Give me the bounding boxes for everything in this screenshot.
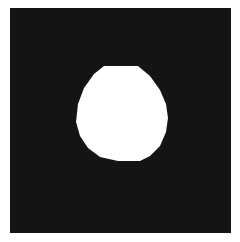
white-blob-mask <box>0 0 240 242</box>
